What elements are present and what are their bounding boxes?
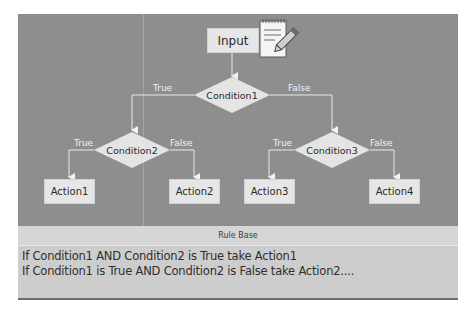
rule-base-body: If Condition1 AND Condition2 is True tak… — [18, 246, 458, 298]
condition1-label[interactable]: Condition1 — [206, 90, 257, 101]
condition2-false-label: False — [170, 138, 193, 148]
condition3-true-label: True — [273, 138, 292, 148]
action2-label: Action2 — [176, 186, 214, 197]
condition1-true-label: True — [153, 83, 172, 93]
action1-label: Action1 — [51, 186, 89, 197]
rule-base-title: Rule Base — [218, 231, 257, 240]
action3-label: Action3 — [251, 186, 289, 197]
action4-label: Action4 — [376, 186, 414, 197]
input-label: Input — [217, 34, 248, 48]
rule-line-2: If Condition1 is True AND Condition2 is … — [22, 264, 354, 278]
action3-node[interactable]: Action3 — [244, 179, 295, 204]
action2-node[interactable]: Action2 — [169, 179, 220, 204]
condition2-true-label: True — [74, 138, 93, 148]
decision-tree-diagram: Input Condition1 Condition — [18, 14, 458, 226]
flowchart-panel: Input Condition1 Condition — [18, 14, 458, 300]
input-node[interactable]: Input — [207, 28, 259, 53]
condition2-label[interactable]: Condition2 — [106, 145, 157, 156]
rule-line-1: If Condition1 AND Condition2 is True tak… — [22, 249, 297, 263]
rule-base-header: Rule Base — [18, 226, 458, 246]
action1-node[interactable]: Action1 — [44, 179, 95, 204]
notepad-pencil-icon — [259, 18, 299, 60]
action4-node[interactable]: Action4 — [369, 179, 420, 204]
condition3-false-label: False — [370, 138, 393, 148]
condition1-false-label: False — [288, 83, 311, 93]
condition3-label[interactable]: Condition3 — [306, 145, 357, 156]
panel-bottom-border — [18, 298, 458, 300]
